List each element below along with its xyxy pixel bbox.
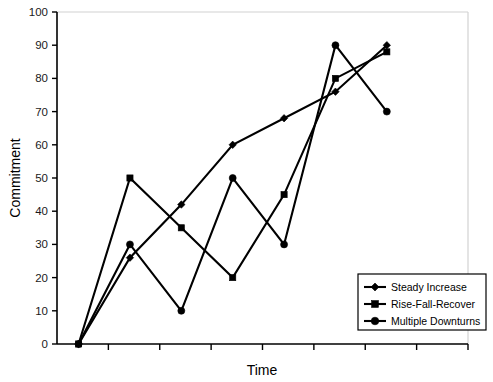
- data-point-square: [384, 49, 390, 55]
- x-axis-ticks: [108, 344, 468, 350]
- y-tick-label: 70: [35, 106, 48, 118]
- x-axis-title: Time: [247, 362, 278, 378]
- y-tick-label: 100: [29, 6, 48, 18]
- legend-item-label: Rise-Fall-Recover: [391, 298, 476, 310]
- data-point-circle: [281, 241, 288, 248]
- data-point-square: [281, 192, 287, 198]
- data-point-circle: [178, 307, 185, 314]
- y-axis: 0102030405060708090100: [29, 6, 57, 350]
- chart-canvas: 0102030405060708090100 Commitment Time S…: [0, 0, 493, 382]
- data-point-circle: [332, 42, 339, 49]
- y-tick-label: 20: [35, 272, 48, 284]
- series-2: [75, 42, 390, 348]
- y-tick-label: 90: [35, 39, 48, 51]
- data-point-circle: [75, 341, 82, 348]
- y-tick-label: 10: [35, 305, 48, 317]
- legend-item-label: Multiple Downturns: [391, 315, 480, 327]
- data-point-circle: [383, 108, 390, 115]
- y-tick-label: 0: [42, 338, 48, 350]
- data-point-square: [230, 275, 236, 281]
- series-1: [75, 49, 389, 347]
- data-point-square: [127, 175, 133, 181]
- y-tick-label: 80: [35, 72, 48, 84]
- data-point-square: [372, 301, 379, 308]
- data-point-diamond: [280, 115, 287, 122]
- chart-legend: Steady IncreaseRise-Fall-RecoverMultiple…: [358, 274, 486, 330]
- series-0: [75, 42, 391, 348]
- data-point-circle: [229, 175, 236, 182]
- series-line: [79, 52, 387, 344]
- data-point-square: [178, 225, 184, 231]
- x-axis: [57, 344, 468, 350]
- data-point-circle: [126, 241, 133, 248]
- legend-item-label: Steady Increase: [391, 281, 467, 293]
- series-layer: [75, 42, 391, 348]
- y-axis-title: Commitment: [7, 138, 23, 217]
- data-point-circle: [371, 317, 379, 325]
- y-tick-label: 60: [35, 139, 48, 151]
- data-point-square: [332, 75, 338, 81]
- y-axis-tick-labels: 0102030405060708090100: [29, 6, 48, 350]
- y-tick-label: 30: [35, 238, 48, 250]
- y-tick-label: 40: [35, 205, 48, 217]
- line-chart: 0102030405060708090100 Commitment Time S…: [0, 0, 493, 382]
- y-tick-label: 50: [35, 172, 48, 184]
